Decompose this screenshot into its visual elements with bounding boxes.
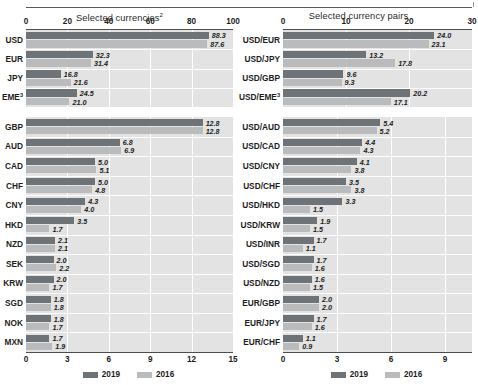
legend-swatch-2019 bbox=[83, 372, 98, 378]
category-label: SEK bbox=[6, 259, 26, 269]
bar-value-label: 1.7 bbox=[52, 283, 62, 292]
legend-item-2016[interactable]: 2016 bbox=[385, 370, 422, 379]
bar-value-label: 1.7 bbox=[52, 224, 62, 233]
gridline-horizontal bbox=[283, 254, 472, 255]
bar-2016 bbox=[26, 166, 96, 173]
bar-2019 bbox=[26, 198, 85, 205]
bar-2019 bbox=[283, 119, 380, 126]
bar-value-label: 3.5 bbox=[77, 216, 87, 225]
bar-2016 bbox=[26, 206, 81, 213]
bar-value-label: 2.1 bbox=[58, 244, 68, 253]
bar-value-label: 5.1 bbox=[99, 165, 109, 174]
bar-value-label: 6.9 bbox=[124, 146, 134, 155]
category-label: CHF bbox=[6, 181, 26, 191]
gridline-horizontal bbox=[26, 215, 233, 216]
gridline-horizontal bbox=[283, 137, 472, 138]
x-axis-tick-label: 6 bbox=[107, 355, 112, 364]
bar-2019 bbox=[26, 256, 54, 263]
category-label: USD/INR bbox=[246, 239, 283, 249]
legend-item-2016[interactable]: 2016 bbox=[137, 370, 174, 379]
gridline-horizontal bbox=[283, 176, 472, 177]
bar-2019 bbox=[26, 119, 203, 126]
bar-value-label: 1.5 bbox=[313, 205, 323, 214]
bar-2016 bbox=[283, 343, 299, 350]
gridline-horizontal bbox=[283, 235, 472, 236]
legend-swatch-2016 bbox=[385, 372, 400, 378]
bar-2016 bbox=[26, 127, 203, 134]
bar-2019 bbox=[283, 296, 319, 303]
bar-2016 bbox=[283, 284, 310, 291]
category-label: EUR/GBP bbox=[242, 298, 283, 308]
bar-2016 bbox=[26, 284, 49, 291]
bar-2016 bbox=[283, 206, 310, 213]
bar-2016 bbox=[26, 343, 52, 350]
chart-legend-right-bottom: 20192016 bbox=[239, 370, 478, 379]
x-axis-tick-label: 3 bbox=[335, 355, 340, 364]
category-label: USD/NZD bbox=[243, 278, 283, 288]
bar-2019 bbox=[26, 335, 49, 342]
category-label: MXN bbox=[5, 337, 26, 347]
category-label: EUR/JPY bbox=[244, 318, 283, 328]
bar-2016 bbox=[283, 225, 310, 232]
category-label: USD/CNY bbox=[243, 161, 283, 171]
chart-page: Selected currencies2 020406080100USD88.3… bbox=[0, 0, 478, 385]
bar-2019 bbox=[283, 158, 357, 165]
bar-2019 bbox=[283, 315, 314, 322]
category-label: USD/KRW bbox=[241, 220, 284, 230]
bar-2019 bbox=[283, 198, 342, 205]
legend-item-2019[interactable]: 2019 bbox=[331, 370, 368, 379]
x-axis-tick-label: 0 bbox=[24, 355, 29, 364]
category-label: CNY bbox=[5, 200, 26, 210]
x-axis-tick-label: 9 bbox=[443, 355, 448, 364]
category-label: USD/CHF bbox=[243, 181, 283, 191]
bar-2016 bbox=[26, 264, 56, 271]
gridline-horizontal bbox=[283, 156, 472, 157]
bar-2019 bbox=[283, 276, 312, 283]
bar-2016 bbox=[283, 264, 312, 271]
bar-2019 bbox=[283, 178, 346, 185]
category-label: USD/HKD bbox=[242, 200, 283, 210]
x-axis-tick-label: 6 bbox=[389, 355, 394, 364]
category-label: HKD bbox=[5, 220, 26, 230]
legend-swatch-2019 bbox=[331, 372, 346, 378]
category-label: CAD bbox=[5, 161, 26, 171]
legend-item-2019[interactable]: 2019 bbox=[83, 370, 120, 379]
bar-2019 bbox=[26, 139, 120, 146]
bar-2019 bbox=[283, 256, 314, 263]
bar-2019 bbox=[283, 217, 317, 224]
category-label: AUD bbox=[5, 141, 26, 151]
bar-2016 bbox=[283, 323, 312, 330]
legend-label: 2016 bbox=[404, 370, 422, 379]
bar-value-label: 2.0 bbox=[322, 303, 332, 312]
bar-value-label: 1.6 bbox=[315, 322, 325, 331]
bar-value-label: 3.8 bbox=[354, 185, 364, 194]
gridline-horizontal bbox=[283, 313, 472, 314]
bar-value-label: 4.0 bbox=[84, 205, 94, 214]
bar-2016 bbox=[283, 304, 319, 311]
gridline-horizontal bbox=[283, 293, 472, 294]
x-axis-tick-label: 12 bbox=[187, 355, 196, 364]
bar-2016 bbox=[26, 147, 121, 154]
gridline-horizontal bbox=[26, 176, 233, 177]
legend-swatch-2016 bbox=[137, 372, 152, 378]
gridline-horizontal bbox=[283, 195, 472, 196]
bar-2016 bbox=[283, 127, 377, 134]
bar-2019 bbox=[26, 237, 55, 244]
bar-2016 bbox=[26, 323, 49, 330]
bar-value-label: 1.5 bbox=[313, 283, 323, 292]
bar-value-label: 4.3 bbox=[363, 146, 373, 155]
x-axis-bottom-right-bottom: 0369 bbox=[239, 355, 478, 368]
bar-2019 bbox=[26, 276, 54, 283]
right-column: Selected currency pairs 0102030USD/EUR24… bbox=[239, 0, 478, 385]
bar-value-label: 2.2 bbox=[59, 263, 69, 272]
bar-value-label: 4.8 bbox=[95, 185, 105, 194]
gridline-horizontal bbox=[283, 215, 472, 216]
x-axis-tick-label: 9 bbox=[148, 355, 153, 364]
plot-area-left-bottom: GBP12.812.8AUD6.86.9CAD5.05.1CHF5.04.8CN… bbox=[26, 117, 233, 352]
bar-value-label: 1.7 bbox=[52, 322, 62, 331]
bar-2019 bbox=[26, 315, 51, 322]
bar-2016 bbox=[283, 147, 360, 154]
category-label: USD/CAD bbox=[242, 141, 283, 151]
bar-value-label: 5.2 bbox=[380, 126, 390, 135]
legend-label: 2016 bbox=[156, 370, 174, 379]
